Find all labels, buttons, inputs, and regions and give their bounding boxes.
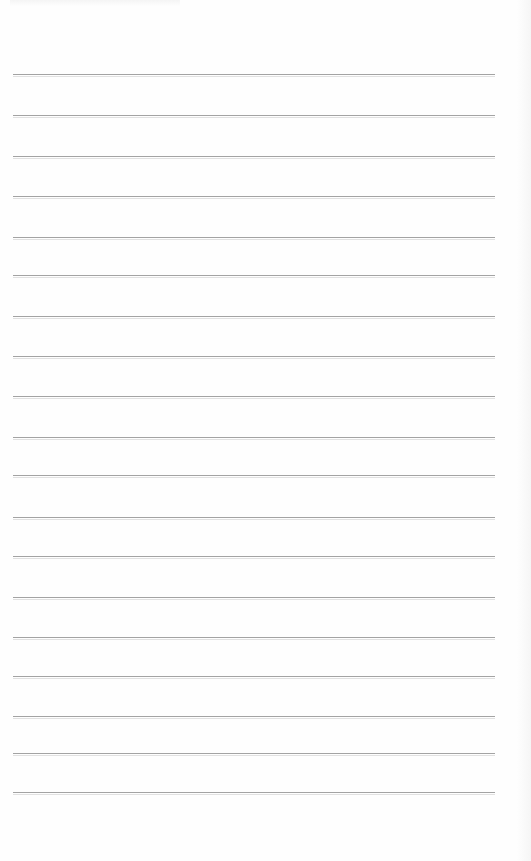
ruled-line: [13, 517, 495, 520]
ruled-line: [13, 156, 495, 159]
scan-shadow-right: [517, 0, 531, 861]
ruled-line: [13, 792, 495, 795]
ruled-line: [13, 716, 495, 719]
ruled-line: [13, 637, 495, 640]
ruled-line: [13, 396, 495, 399]
ruled-line: [13, 74, 495, 77]
ruled-line: [13, 556, 495, 559]
ruled-line: [13, 475, 495, 478]
ruled-line: [13, 237, 495, 240]
scan-shadow-top: [10, 0, 180, 6]
ruled-line: [13, 676, 495, 679]
ruled-line: [13, 437, 495, 440]
ruled-line: [13, 356, 495, 359]
notebook-page: [0, 0, 531, 861]
ruled-line: [13, 753, 495, 756]
ruled-line: [13, 316, 495, 319]
ruled-line: [13, 597, 495, 600]
ruled-line: [13, 115, 495, 118]
ruled-line: [13, 196, 495, 199]
ruled-line: [13, 275, 495, 278]
